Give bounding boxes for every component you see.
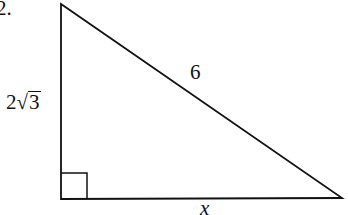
right-triangle-figure (0, 0, 348, 215)
leg-radicand: 3 (28, 91, 41, 113)
radical-icon: √ (17, 90, 29, 114)
triangle-outline (61, 4, 342, 199)
vertical-leg-label: 2√3 (6, 91, 41, 113)
right-angle-marker (61, 173, 87, 199)
hypotenuse-label: 6 (190, 62, 201, 83)
base-label: x (200, 198, 209, 215)
leg-coefficient: 2 (6, 90, 17, 114)
